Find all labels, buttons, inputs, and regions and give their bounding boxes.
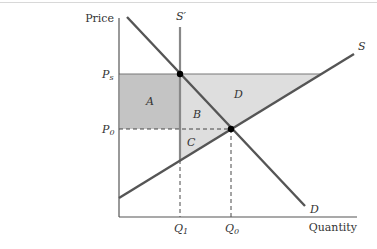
s-prime-label: S′	[176, 10, 187, 23]
ps-label: Ps	[101, 68, 114, 82]
supply-demand-diagram: Price Quantity Ps P0 Q1 Q0 S′ S D A B C …	[0, 0, 377, 249]
d-label: D	[309, 203, 319, 216]
q0-label: Q0	[225, 222, 239, 236]
ps-equilibrium-point	[177, 71, 183, 77]
q1-label: Q1	[174, 222, 188, 236]
region-b-d	[180, 74, 321, 129]
region-c-label: C	[187, 136, 196, 149]
y-axis-label: Price	[85, 12, 114, 25]
region-b-label: B	[192, 108, 201, 121]
region-a-label: A	[145, 95, 154, 108]
region-d-label: D	[233, 88, 243, 101]
p0-label: P0	[101, 123, 115, 137]
s-label: S	[358, 40, 366, 53]
x-axis-label: Quantity	[309, 221, 358, 234]
p0-equilibrium-point	[228, 126, 234, 132]
